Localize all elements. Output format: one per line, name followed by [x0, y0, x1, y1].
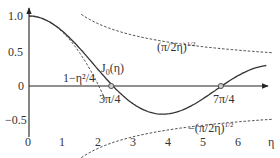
envelope-neg-label: −(π/2η)1/2 — [188, 122, 233, 134]
y-tick-label: 0 — [18, 80, 24, 92]
zero-label-3pi4: 3π/4 — [99, 93, 120, 105]
j0-label: J0(η) — [101, 62, 124, 77]
zero-marker-7pi4 — [218, 83, 223, 88]
chart: 1.0 0.5 0 −0.5 0 1 2 3 4 5 6 η J0(η) 1−η… — [0, 0, 280, 158]
x-tick-label: 4 — [165, 136, 171, 148]
taylor-label: 1−η²/4 — [63, 72, 95, 84]
x-tick-label: 6 — [235, 136, 241, 148]
y-tick-label: 1.0 — [8, 10, 23, 22]
zero-marker-3pi4 — [109, 83, 114, 88]
x-axis-label: η — [268, 136, 274, 148]
x-tick-label: 1 — [59, 136, 65, 148]
y-tick-label: −0.5 — [5, 114, 27, 126]
x-tick-label: 5 — [200, 136, 206, 148]
y-tick-label: 0.5 — [8, 46, 23, 58]
envelope-neg-curve — [81, 119, 273, 157]
taylor-curve — [29, 16, 106, 101]
x-tick-label: 3 — [130, 136, 136, 148]
zero-label-7pi4: 7π/4 — [213, 93, 234, 105]
envelope-pos-label: (π/2η)1/2 — [157, 41, 196, 53]
x-tick-label: 0 — [25, 136, 31, 148]
x-tick-label: 2 — [95, 136, 101, 148]
